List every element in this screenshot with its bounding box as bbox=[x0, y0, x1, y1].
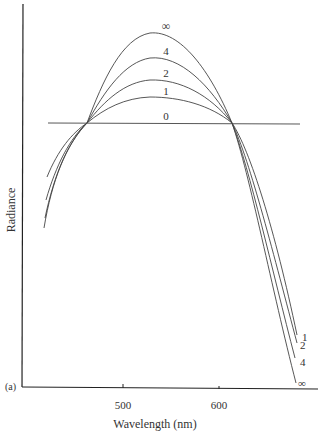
curve-label-1-top: 1 bbox=[163, 85, 169, 97]
curve-label-0: 0 bbox=[163, 110, 169, 122]
curve-infinity bbox=[44, 33, 296, 383]
curve-label-infinity-top: ∞ bbox=[162, 19, 171, 33]
y-axis-label: Radiance bbox=[4, 188, 18, 233]
x-axis bbox=[22, 387, 318, 389]
curve-4 bbox=[45, 58, 295, 358]
radiance-chart: 500 600 Wavelength (nm) Radiance (a) ∞ 4… bbox=[0, 0, 325, 435]
y-axis bbox=[22, 4, 23, 387]
curve-label-4-right: 4 bbox=[300, 356, 306, 368]
x-tick-label-600: 600 bbox=[211, 399, 228, 411]
x-axis-label: Wavelength (nm) bbox=[113, 417, 196, 431]
x-tick-label-500: 500 bbox=[115, 399, 132, 411]
curve-label-2-right: 2 bbox=[300, 339, 306, 351]
curve-label-4-top: 4 bbox=[163, 45, 169, 57]
panel-label: (a) bbox=[5, 381, 16, 393]
curve-2 bbox=[46, 80, 297, 343]
curve-label-infinity-right: ∞ bbox=[298, 377, 306, 389]
curve-label-2-top: 2 bbox=[163, 67, 169, 79]
